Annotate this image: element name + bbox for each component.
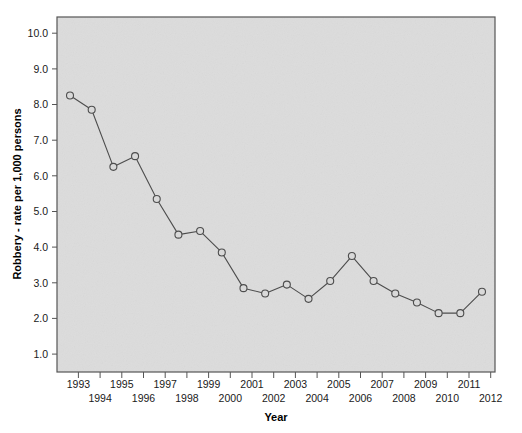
x-tick-label: 2012	[479, 392, 503, 404]
data-point	[240, 285, 247, 292]
data-point	[175, 231, 182, 238]
x-tick-label: 1997	[154, 378, 178, 390]
data-point	[413, 299, 420, 306]
x-tick-label: 1996	[132, 392, 156, 404]
data-point	[478, 288, 485, 295]
y-tick-label: 3.0	[33, 277, 48, 289]
data-point	[457, 310, 464, 317]
y-tick-label: 4.0	[33, 241, 48, 253]
plot-area	[57, 17, 495, 372]
y-tick-label: 7.0	[33, 134, 48, 146]
line-chart: 10.0 9.0 8.0 7.0 6.0 5.0 4.0 3.0 2.0 1.0…	[0, 0, 522, 433]
x-tick-label: 2003	[284, 378, 308, 390]
y-tick-label: 6.0	[33, 170, 48, 182]
x-tick-label: 1995	[110, 378, 134, 390]
data-point	[262, 290, 269, 297]
x-tick-label: 2006	[349, 392, 373, 404]
chart-container: 10.0 9.0 8.0 7.0 6.0 5.0 4.0 3.0 2.0 1.0…	[0, 0, 522, 433]
x-tick-label: 2002	[262, 392, 286, 404]
data-point	[132, 153, 139, 160]
data-point	[392, 290, 399, 297]
x-tick-label: 2004	[305, 392, 329, 404]
y-tick-label: 9.0	[33, 63, 48, 75]
data-point	[370, 278, 377, 285]
data-point	[67, 92, 74, 99]
data-point	[327, 278, 334, 285]
data-point	[283, 281, 290, 288]
data-point	[348, 253, 355, 260]
data-point	[218, 249, 225, 256]
y-tick-label: 2.0	[33, 312, 48, 324]
x-tick-label: 1993	[67, 378, 91, 390]
data-point	[197, 228, 204, 235]
y-tick-label: 1.0	[33, 348, 48, 360]
plot-background	[57, 17, 495, 372]
x-tick-label: 2007	[371, 378, 395, 390]
y-tick-label: 10.0	[28, 27, 49, 39]
x-tick-label: 1998	[175, 392, 199, 404]
x-tick-label: 2005	[327, 378, 351, 390]
x-tick-label: 2010	[436, 392, 460, 404]
data-point	[153, 195, 160, 202]
data-point	[88, 106, 95, 113]
x-axis-title: Year	[264, 411, 288, 423]
x-tick-label: 2011	[458, 378, 481, 390]
data-point	[435, 310, 442, 317]
data-point	[305, 295, 312, 302]
x-tick-label: 1994	[88, 392, 112, 404]
y-tick-label: 5.0	[33, 205, 48, 217]
y-tick-label: 8.0	[33, 98, 48, 110]
x-tick-label: 1999	[197, 378, 221, 390]
x-tick-label: 2001	[240, 378, 264, 390]
x-tick-label: 2000	[219, 392, 243, 404]
data-point	[110, 163, 117, 170]
x-tick-label: 2009	[414, 378, 438, 390]
y-axis-title: Robbery - rate per 1,000 persons	[11, 108, 23, 279]
x-tick-label: 2008	[392, 392, 416, 404]
